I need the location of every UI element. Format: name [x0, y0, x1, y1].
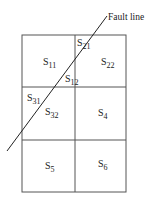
cell-label-s12: S12 — [65, 73, 79, 87]
fault-grid-diagram: Fault line S11 S21 S22 S12 S31 S32 S4 S5… — [0, 0, 147, 202]
cell-label-s11: S11 — [43, 56, 56, 70]
cell-label-s31: S31 — [27, 92, 41, 106]
cell-label-s6: S6 — [98, 158, 108, 172]
cell-label-s21: S21 — [77, 37, 91, 51]
grid — [22, 35, 126, 192]
cell-label-s5: S5 — [45, 160, 55, 174]
fault-line-label: Fault line — [108, 12, 144, 22]
grid-border — [22, 35, 126, 192]
cell-label-s22: S22 — [101, 56, 115, 70]
cell-label-s4: S4 — [98, 107, 108, 121]
cell-label-s32: S32 — [45, 106, 59, 120]
